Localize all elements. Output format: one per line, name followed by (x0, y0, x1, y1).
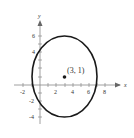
x-tick-label: 4 (71, 89, 74, 95)
center-point (63, 75, 67, 79)
y-tick-label: 4 (32, 49, 35, 55)
y-axis-arrow-icon (38, 20, 43, 26)
center-label: (3, 1) (67, 66, 85, 75)
ellipse-diagram: x y -2 2 4 6 8 6 4 -2 -4 (3, 1) (0, 0, 134, 138)
y-tick-label: -2 (29, 98, 34, 104)
y-tick-label: -4 (29, 114, 34, 120)
x-tick-label: 8 (103, 89, 106, 95)
x-tick-label: 2 (54, 89, 57, 95)
x-axis-arrow-icon (115, 83, 121, 88)
x-tick-label: 6 (87, 89, 90, 95)
y-axis-label: y (37, 13, 41, 19)
y-tick-label: 6 (32, 33, 35, 39)
x-tick-label: -2 (20, 89, 25, 95)
x-axis-label: x (123, 82, 127, 88)
